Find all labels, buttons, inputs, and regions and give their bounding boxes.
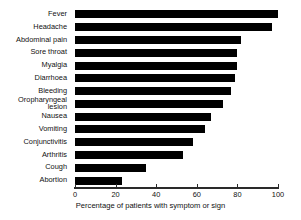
bar-row (75, 100, 223, 108)
x-axis-line (74, 187, 279, 189)
bar-chart-figure: FeverHeadacheAbdominal painSore throatMy… (0, 0, 301, 220)
category-label: Conjunctivitis (0, 138, 67, 146)
bar (75, 49, 237, 57)
bar (75, 100, 223, 108)
x-tick (237, 184, 238, 187)
bar (75, 151, 183, 159)
bar (75, 36, 241, 44)
bar (75, 23, 272, 31)
x-tick (278, 184, 279, 187)
x-tick (116, 184, 117, 187)
bar-row (75, 36, 241, 44)
bar (75, 87, 231, 95)
category-label: Myalgia (0, 61, 67, 69)
x-tick (75, 184, 76, 187)
bar-row (75, 164, 146, 172)
bar-row (75, 74, 235, 82)
bar (75, 138, 193, 146)
plot-area (75, 8, 278, 187)
category-label: Abortion (0, 176, 67, 184)
category-label: Cough (0, 163, 67, 171)
category-label: Vomiting (0, 125, 67, 133)
bar-row (75, 10, 278, 18)
x-tick (197, 184, 198, 187)
bar-row (75, 49, 237, 57)
x-tick-label: 60 (182, 190, 212, 199)
category-label: Arthritis (0, 151, 67, 159)
category-label: Oropharyngeal lesion (0, 96, 67, 111)
category-label: Diarrhoea (0, 74, 67, 82)
bar (75, 164, 146, 172)
x-tick-label: 80 (222, 190, 252, 199)
bar (75, 10, 278, 18)
x-tick (156, 184, 157, 187)
category-axis: FeverHeadacheAbdominal painSore throatMy… (0, 8, 71, 187)
x-tick-label: 40 (141, 190, 171, 199)
bar-row (75, 87, 231, 95)
category-label: Fever (0, 10, 67, 18)
bar-row (75, 125, 205, 133)
bar-row (75, 23, 272, 31)
category-label: Sore throat (0, 48, 67, 56)
bar (75, 74, 235, 82)
category-label: Nausea (0, 112, 67, 120)
bar (75, 113, 211, 121)
bar-row (75, 138, 193, 146)
x-tick-label: 100 (263, 190, 293, 199)
category-label: Headache (0, 23, 67, 31)
x-tick-label: 20 (101, 190, 131, 199)
bar-row (75, 113, 211, 121)
bar (75, 125, 205, 133)
x-axis-title: Percentage of patients with symptom or s… (0, 201, 301, 211)
category-label: Abdominal pain (0, 36, 67, 44)
x-tick-label: 0 (60, 190, 90, 199)
bar-row (75, 151, 183, 159)
bar-row (75, 62, 237, 70)
bar (75, 62, 237, 70)
category-label: Bleeding (0, 87, 67, 95)
